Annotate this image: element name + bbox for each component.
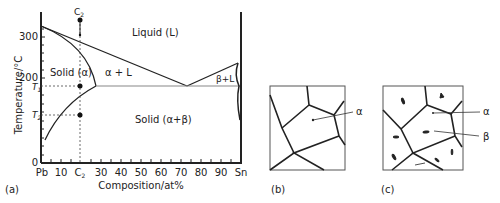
region-solid-alpha: Solid (α) <box>50 67 92 78</box>
panel-a-label: (a) <box>5 184 19 195</box>
panel-c-alpha-label: α <box>483 106 490 117</box>
region-beta-liquid: β+L <box>216 74 234 84</box>
x-axis-label: Composition/at% <box>98 180 183 191</box>
solvus-alpha <box>45 86 96 140</box>
panel-a-phase-diagram: C2 Temperature/°C 0 200 300 T1 T2 Pb 10 … <box>5 7 247 195</box>
panel-c-microstructure: α β (c) <box>381 86 490 195</box>
svg-text:10: 10 <box>55 167 68 178</box>
region-solid-alpha-beta: Solid (α+β) <box>135 114 192 125</box>
c2-small-point <box>79 34 81 36</box>
panel-b-alpha-label: α <box>356 106 363 117</box>
svg-text:80: 80 <box>195 167 208 178</box>
region-alpha-liquid: α + L <box>105 67 132 78</box>
x-tick-labels: Pb 10 C2 30 40 50 60 70 80 90 Sn <box>36 167 248 179</box>
svg-text:50: 50 <box>135 167 148 178</box>
svg-text:Sn: Sn <box>235 167 248 178</box>
svg-text:60: 60 <box>155 167 168 178</box>
phase-diagram-figure: C2 Temperature/°C 0 200 300 T1 T2 Pb 10 … <box>0 0 500 203</box>
panel-b-label: (b) <box>271 184 285 195</box>
grain-boundaries-b <box>270 86 345 170</box>
panel-c-beta-label: β <box>483 131 489 142</box>
svg-text:Pb: Pb <box>36 167 48 178</box>
svg-text:40: 40 <box>115 167 128 178</box>
y-tick-300: 300 <box>19 31 38 42</box>
y-axis-label: Temperature/°C <box>13 56 24 136</box>
svg-text:90: 90 <box>215 167 228 178</box>
panel-b-microstructure: α (b) <box>270 86 363 195</box>
panel-c-label: (c) <box>381 184 394 195</box>
svg-text:70: 70 <box>175 167 188 178</box>
t1-point <box>78 84 83 89</box>
c2-top-label: C2 <box>74 7 84 18</box>
alpha-pointer-b <box>313 112 353 120</box>
svg-text:30: 30 <box>95 167 108 178</box>
alpha-pointer-c <box>433 112 480 113</box>
region-liquid: Liquid (L) <box>132 27 179 38</box>
t1-label: T1 <box>32 82 41 93</box>
svg-text:C2: C2 <box>75 167 86 179</box>
beta-boundary <box>236 63 240 120</box>
beta-pointer-c <box>434 131 479 136</box>
t2-point <box>78 113 83 118</box>
c2-liquid-point <box>78 18 83 23</box>
